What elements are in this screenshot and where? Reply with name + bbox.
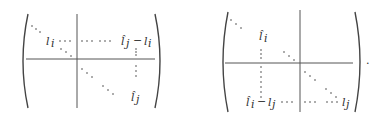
right-ddots-mid — [283, 51, 295, 61]
left-label-li-sub: i — [51, 37, 55, 50]
left-ddots-mid — [60, 48, 72, 57]
right-label-lhati-bottom-sub: i — [251, 98, 255, 111]
right-column-dots — [260, 49, 262, 98]
right-row-dots — [281, 101, 338, 103]
trailing-period: . — [366, 54, 370, 67]
left-paren-close — [155, 14, 160, 108]
right-label-lhati-sub: i — [264, 32, 268, 45]
left-row-dots — [59, 40, 111, 42]
left-label-minus: − — [133, 34, 142, 47]
left-column-dots — [135, 48, 137, 77]
right-paren-open — [223, 12, 228, 112]
right-ddots-bottom — [304, 71, 337, 98]
right-label-minus: − — [257, 95, 266, 108]
left-label-li2-sub: i — [148, 37, 152, 50]
left-ddots-bottom — [81, 68, 114, 95]
left-ddots-top — [31, 25, 41, 33]
right-ddots-top — [230, 19, 242, 29]
right-matrix: l̂ i l̂ i − l j l j — [223, 10, 360, 112]
left-label-li: l — [46, 35, 50, 48]
left-matrix: l i l̂ j − l i l̂ j — [23, 14, 160, 108]
figure-canvas: l i l̂ j − l i l̂ j — [0, 0, 384, 121]
right-paren-close — [355, 12, 360, 112]
left-paren-open — [23, 14, 28, 108]
